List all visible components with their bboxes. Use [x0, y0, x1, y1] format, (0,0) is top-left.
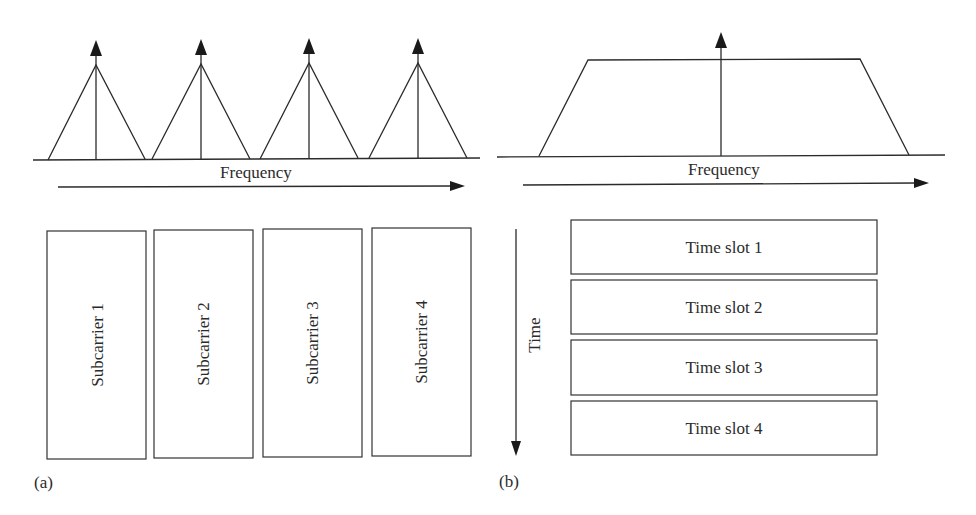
panel-a-label: (a): [34, 473, 53, 492]
frequency-arrow: [58, 186, 452, 187]
arrow-down-icon: [511, 441, 521, 456]
panel-b-label: (b): [499, 472, 519, 491]
subcarrier-label: Subcarrier 3: [303, 301, 322, 385]
subcarrier-peak-4: [369, 38, 467, 158]
time-slot-box-3: Time slot 3: [571, 340, 877, 395]
subcarrier-peak-1: [48, 40, 145, 160]
subcarrier-label: Subcarrier 2: [194, 302, 213, 386]
time-slot-label: Time slot 4: [686, 419, 763, 438]
time-slot-label: Time slot 3: [686, 358, 763, 377]
arrow-up-icon: [715, 32, 727, 48]
subcarrier-peak-3: [260, 38, 358, 159]
arrow-right-icon: [914, 178, 929, 188]
time-axis-label: Time: [525, 317, 544, 352]
subcarrier-box-3: Subcarrier 3: [263, 229, 362, 457]
frequency-axis-label: Frequency: [688, 160, 760, 179]
panel-a-subcarriers: Subcarrier 1 Subcarrier 2 Subcarrier 3 S…: [34, 228, 471, 492]
frequency-arrow: [523, 183, 916, 185]
subcarrier-box-1: Subcarrier 1: [47, 231, 146, 459]
trapezoid-spectrum-icon: [539, 59, 909, 156]
time-slot-box-4: Time slot 4: [571, 401, 877, 455]
subcarrier-box-2: Subcarrier 2: [154, 230, 253, 458]
time-slot-label: Time slot 1: [686, 238, 763, 257]
panel-b-spectrum: Frequency: [497, 32, 945, 188]
subcarrier-label: Subcarrier 1: [88, 303, 107, 387]
panel-b-time-slots: Time Time slot 1 Time slot 2 Time slot 3…: [499, 220, 877, 491]
arrow-up-icon: [195, 39, 207, 55]
arrow-up-icon: [412, 38, 424, 54]
arrow-right-icon: [450, 181, 465, 191]
subcarrier-peak-2: [152, 39, 250, 159]
arrow-up-icon: [303, 38, 315, 54]
arrow-up-icon: [90, 40, 102, 56]
frequency-baseline: [33, 158, 480, 160]
subcarrier-label: Subcarrier 4: [412, 300, 431, 384]
time-slot-box-2: Time slot 2: [571, 280, 877, 334]
subcarrier-box-4: Subcarrier 4: [372, 228, 471, 456]
panel-a-spectrum: Frequency: [33, 38, 480, 191]
ofdm-vs-tdma-diagram: Frequency Subcarrier 1 Subcarrier 2 Subc…: [0, 0, 976, 515]
time-slot-box-1: Time slot 1: [571, 220, 877, 274]
frequency-axis-label: Frequency: [220, 163, 292, 182]
time-slot-label: Time slot 2: [686, 298, 763, 317]
